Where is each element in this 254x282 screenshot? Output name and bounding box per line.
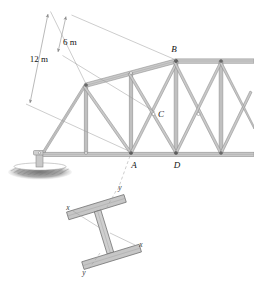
pin-top-right [220, 60, 223, 63]
pin-C [152, 113, 155, 116]
truss-diagram-svg: 6 m 12 m A B C D [0, 0, 254, 282]
joint-label-A: A [130, 160, 137, 170]
ext-line-top [51, 12, 87, 85]
support-column [36, 154, 43, 167]
axis-label-y-top: y [117, 183, 122, 192]
pin-top-mid [130, 72, 133, 75]
axis-leader-x-right [110, 233, 135, 245]
axis-label-y-bottom: y [81, 268, 86, 277]
pin-D [174, 151, 177, 154]
figure-canvas: 6 m 12 m A B C D [0, 0, 254, 282]
axis-label-x-right: x [138, 240, 143, 249]
top-chord-group [85, 59, 254, 88]
axis-label-x-left: x [65, 203, 70, 212]
web-diagonals-group [83, 60, 254, 154]
ext-line-B [72, 15, 177, 60]
support-pin-circle [38, 152, 40, 154]
pin-mid-right [197, 113, 200, 116]
joint-label-B: B [171, 44, 177, 54]
pin-bottom-1 [85, 152, 88, 155]
dimension-label-12m: 12 m [30, 54, 48, 64]
joint-label-D: D [173, 160, 181, 170]
web-diagonal-6 [220, 91, 252, 154]
ext-line-C [63, 56, 156, 113]
web-plate [94, 210, 113, 254]
ext-line-A [26, 104, 131, 152]
web-diagonal-1 [83, 85, 132, 153]
cross-section-group [67, 195, 142, 270]
web-diagonal-2 [130, 60, 179, 154]
end-diagonal-group [43, 83, 87, 153]
joint-label-C: C [158, 109, 165, 119]
dimension-label-6m: 6 m [63, 37, 77, 47]
end-post-centerline [44, 84, 86, 152]
pin-bottom-4 [220, 152, 223, 155]
